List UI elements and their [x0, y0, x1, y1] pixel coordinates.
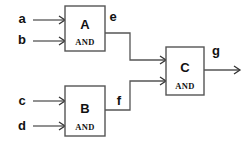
wire-group: [33, 20, 239, 126]
gate-a[interactable]: A AND: [65, 6, 105, 51]
gate-b-type-label: AND: [75, 122, 94, 132]
signal-label-d: d: [18, 118, 26, 133]
gate-a-type-label: AND: [75, 37, 94, 47]
logic-circuit-diagram: A AND B AND C AND a b c d e f g: [0, 0, 247, 145]
signal-label-f: f: [117, 93, 122, 108]
signal-label-a: a: [18, 11, 26, 26]
gate-c-type-label: AND: [175, 81, 194, 91]
wire-signal-f: [105, 81, 165, 110]
wire-signal-e: [105, 33, 165, 60]
gate-b-label: B: [80, 101, 89, 116]
gate-c[interactable]: C AND: [166, 47, 204, 95]
signal-label-b: b: [18, 32, 26, 47]
signal-label-g: g: [212, 43, 220, 58]
circuit-svg: A AND B AND C AND a b c d e f g: [0, 0, 247, 145]
gate-c-label: C: [180, 60, 190, 75]
gate-b[interactable]: B AND: [65, 86, 105, 136]
gate-a-label: A: [80, 17, 90, 32]
signal-label-c: c: [18, 93, 25, 108]
signal-label-e: e: [109, 9, 116, 24]
